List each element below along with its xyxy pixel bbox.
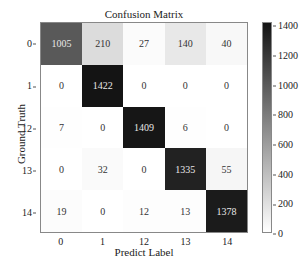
colorbar-tick-label: 600 <box>273 138 293 149</box>
x-axis-label: Predict Label <box>40 246 248 258</box>
matrix-cell: 55 <box>206 148 247 190</box>
matrix-cell: 12 <box>123 190 164 232</box>
matrix-cell: 0 <box>41 65 82 107</box>
colorbar-tick-label: 800 <box>273 109 293 120</box>
colorbar-tick-label: 200 <box>273 198 293 209</box>
confusion-matrix: 1005210271404001422000701409600320133555… <box>40 22 248 233</box>
matrix-cell: 1335 <box>165 148 206 190</box>
colorbar-tick-label: 1000 <box>273 79 298 90</box>
matrix-cell: 0 <box>206 107 247 149</box>
matrix-cell: 19 <box>41 190 82 232</box>
matrix-cell: 0 <box>123 65 164 107</box>
colorbar <box>262 22 272 233</box>
matrix-cell: 0 <box>82 107 123 149</box>
y-tick-label: 0 <box>27 38 36 49</box>
matrix-cell: 13 <box>165 190 206 232</box>
matrix-cell: 32 <box>82 148 123 190</box>
y-tick-label: 14 <box>22 206 36 217</box>
matrix-cell: 0 <box>123 148 164 190</box>
colorbar-tick-label: 0 <box>273 228 283 239</box>
matrix-cell: 40 <box>206 23 247 65</box>
matrix-cell: 1378 <box>206 190 247 232</box>
matrix-cell: 1422 <box>82 65 123 107</box>
matrix-cell: 1409 <box>123 107 164 149</box>
colorbar-tick-label: 1200 <box>273 49 298 60</box>
y-tick-label: 1 <box>27 80 36 91</box>
matrix-cell: 0 <box>206 65 247 107</box>
matrix-cell: 140 <box>165 23 206 65</box>
chart-title: Confusion Matrix <box>40 8 248 20</box>
matrix-cell: 0 <box>165 65 206 107</box>
matrix-cell: 0 <box>82 190 123 232</box>
matrix-cell: 0 <box>41 148 82 190</box>
matrix-cell: 27 <box>123 23 164 65</box>
colorbar-tick-label: 400 <box>273 168 293 179</box>
matrix-cell: 1005 <box>41 23 82 65</box>
y-axis-label: Ground Truth <box>15 99 27 169</box>
colorbar-tick-label: 1400 <box>273 20 298 31</box>
matrix-cell: 210 <box>82 23 123 65</box>
matrix-cell: 6 <box>165 107 206 149</box>
matrix-cell: 7 <box>41 107 82 149</box>
